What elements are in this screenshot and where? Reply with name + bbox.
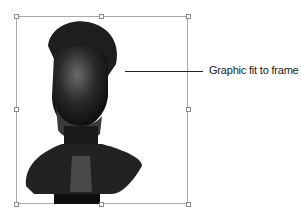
bust-graphic [20, 16, 150, 204]
resize-handle-bottom-center[interactable] [99, 202, 104, 207]
resize-handle-top-center[interactable] [99, 14, 104, 19]
callout-leader-line [125, 71, 203, 72]
resize-handle-middle-right[interactable] [186, 107, 191, 112]
resize-handle-middle-left[interactable] [14, 107, 19, 112]
resize-handle-bottom-left[interactable] [14, 202, 19, 207]
resize-handle-bottom-right[interactable] [186, 202, 191, 207]
resize-handle-top-right[interactable] [186, 14, 191, 19]
resize-handle-top-left[interactable] [14, 14, 19, 19]
callout-label: Graphic fit to frame [209, 64, 299, 76]
